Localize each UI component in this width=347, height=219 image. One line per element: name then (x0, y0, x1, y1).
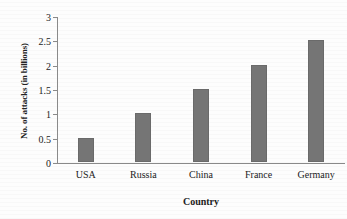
y-tick-label: 0 (46, 158, 51, 169)
bar-russia (135, 113, 151, 162)
x-tick-label-russia: Russia (130, 169, 157, 180)
bar-china (193, 89, 209, 162)
bar-germany (308, 40, 324, 162)
bar-france (251, 65, 267, 162)
y-tick-mark (53, 66, 57, 67)
bar-usa (78, 138, 94, 162)
bar-chart: No. of attacks (in billions) 00.511.522.… (0, 0, 347, 219)
x-axis-title: Country (57, 196, 345, 207)
y-tick-label: 1.5 (39, 85, 52, 96)
y-tick-mark (53, 41, 57, 42)
y-tick-label: 2.5 (39, 36, 52, 47)
x-axis-line (57, 163, 345, 164)
y-tick-mark (53, 90, 57, 91)
y-axis-title: No. of attacks (in billions) (19, 11, 29, 171)
y-tick-mark (53, 163, 57, 164)
y-tick-label: 3 (46, 12, 51, 23)
y-axis-line (57, 17, 58, 164)
x-tick-label-usa: USA (76, 169, 96, 180)
y-tick-mark (53, 17, 57, 18)
x-tick-label-germany: Germany (298, 169, 335, 180)
x-tick-label-france: France (245, 169, 272, 180)
x-tick-label-china: China (189, 169, 213, 180)
y-tick-label: 0.5 (39, 133, 52, 144)
y-tick-label: 2 (46, 60, 51, 71)
y-tick-mark (53, 114, 57, 115)
plot-area: 00.511.522.53 USARussiaChinaFranceGerman… (57, 17, 345, 163)
y-tick-label: 1 (46, 109, 51, 120)
y-tick-mark (53, 139, 57, 140)
